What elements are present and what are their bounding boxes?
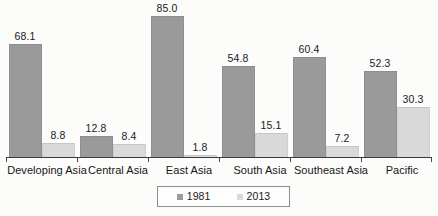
x-axis-tick — [290, 158, 291, 162]
x-axis-tick — [431, 158, 432, 162]
x-tick-label-southeast-asia: Southeast Asia — [294, 163, 368, 178]
x-tick-label-developing-asia: Developing Asia — [7, 163, 87, 178]
legend-item-1981[interactable]: 1981 — [177, 191, 211, 202]
x-tick-label-east-asia: East Asia — [166, 163, 212, 178]
bar-group-southeast-asia: 60.4 7.2 — [290, 4, 361, 158]
bar-group-pacific: 52.3 30.3 — [361, 4, 432, 158]
legend-swatch-1981-icon — [177, 194, 183, 200]
bar-group-south-asia: 54.8 15.1 — [219, 4, 290, 158]
bar-value-label: 68.1 — [15, 31, 36, 42]
bar-2013-south-asia[interactable]: 15.1 — [255, 133, 288, 158]
bar-chart: 68.1 8.8 12.8 8.4 85.0 — [0, 0, 438, 216]
bar-2013-developing-asia[interactable]: 8.8 — [42, 143, 75, 158]
bar-group-central-asia: 12.8 8.4 — [77, 4, 148, 158]
bar-group-east-asia: 85.0 1.8 — [148, 4, 219, 158]
bar-value-label: 15.1 — [261, 120, 282, 131]
bar-2013-pacific[interactable]: 30.3 — [397, 107, 430, 158]
bar-1981-south-asia[interactable]: 54.8 — [222, 66, 255, 158]
bar-1981-east-asia[interactable]: 85.0 — [151, 16, 184, 158]
bar-value-label: 8.4 — [122, 131, 137, 142]
bar-1981-pacific[interactable]: 52.3 — [364, 71, 397, 158]
bar-group-developing-asia: 68.1 8.8 — [6, 4, 77, 158]
bar-value-label: 85.0 — [157, 3, 178, 14]
legend-item-2013[interactable]: 2013 — [237, 191, 271, 202]
bar-value-label: 1.8 — [193, 142, 208, 153]
x-axis-tick — [361, 158, 362, 162]
x-axis-tick — [219, 158, 220, 162]
x-tick-label-central-asia: Central Asia — [88, 163, 148, 178]
legend-label-1981: 1981 — [187, 191, 211, 202]
bar-value-label: 52.3 — [370, 58, 391, 69]
x-tick-label-pacific: Pacific — [386, 163, 419, 178]
chart-legend: 1981 2013 — [157, 186, 290, 207]
bar-1981-developing-asia[interactable]: 68.1 — [9, 44, 42, 158]
x-axis-tick-labels: Developing Asia Central Asia East Asia S… — [6, 163, 432, 179]
bar-value-label: 54.8 — [228, 53, 249, 64]
x-axis-tick — [77, 158, 78, 162]
bar-2013-central-asia[interactable]: 8.4 — [113, 144, 146, 158]
legend-swatch-2013-icon — [237, 194, 243, 200]
bar-value-label: 60.4 — [299, 44, 320, 55]
bar-1981-southeast-asia[interactable]: 60.4 — [293, 57, 326, 158]
bar-value-label: 7.2 — [335, 133, 350, 144]
x-axis-tick — [6, 158, 7, 162]
x-axis-tick — [148, 158, 149, 162]
bar-1981-central-asia[interactable]: 12.8 — [80, 136, 113, 158]
x-tick-label-south-asia: South Asia — [233, 163, 286, 178]
bar-value-label: 12.8 — [86, 123, 107, 134]
bar-value-label: 30.3 — [403, 94, 424, 105]
bar-value-label: 8.8 — [51, 130, 66, 141]
plot-area: 68.1 8.8 12.8 8.4 85.0 — [6, 4, 432, 158]
legend-label-2013: 2013 — [247, 191, 271, 202]
